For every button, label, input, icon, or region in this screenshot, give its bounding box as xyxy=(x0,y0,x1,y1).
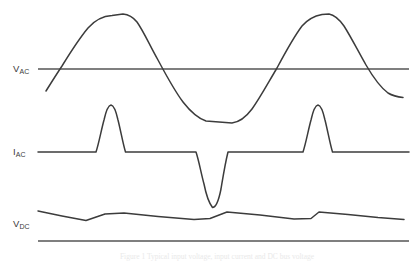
vac-axis-label: VAC xyxy=(13,64,29,74)
vac-panel xyxy=(38,14,409,123)
iac-axis-label: IAC xyxy=(13,147,26,157)
vdc-ripple-trace xyxy=(38,211,404,221)
iac-panel xyxy=(38,105,409,208)
waveform-canvas xyxy=(0,0,415,262)
vdc-panel xyxy=(38,211,409,241)
vdc-axis-label: VDC xyxy=(13,219,30,229)
figure-caption: Figure 1 Typical input voltage, input cu… xyxy=(52,252,382,261)
iac-waveform-trace xyxy=(38,105,409,208)
waveform-figure: VAC IAC VDC Figure 1 Typical input volta… xyxy=(0,0,415,262)
vac-label-sub: AC xyxy=(20,68,30,75)
vac-label-main: V xyxy=(13,63,20,74)
vdc-label-main: V xyxy=(13,218,20,229)
iac-label-sub: AC xyxy=(16,151,26,158)
vdc-label-sub: DC xyxy=(20,223,30,230)
